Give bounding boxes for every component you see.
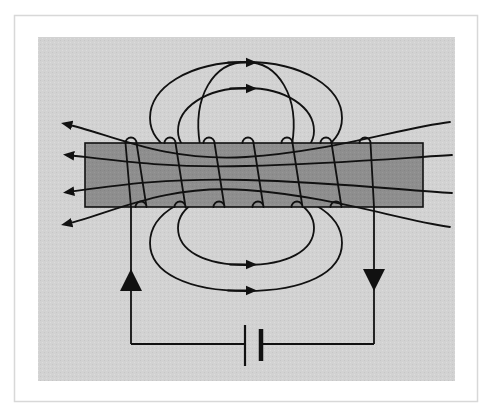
figure-root [0,0,492,418]
solenoid-field-diagram [0,0,492,418]
